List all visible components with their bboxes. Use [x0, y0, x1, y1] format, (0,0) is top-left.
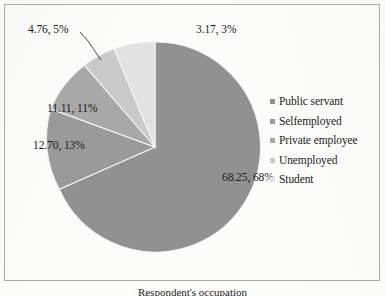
- data-label-student: 3.17, 3%: [196, 24, 236, 36]
- legend-item-private-employee[interactable]: Private employee: [270, 131, 376, 151]
- leader-line-unemployed: [80, 32, 101, 60]
- legend-swatch-icon: [270, 177, 275, 182]
- legend-swatch-icon: [270, 138, 275, 143]
- legend-item-label: Selfemployed: [279, 116, 342, 128]
- legend-swatch-icon: [270, 119, 275, 124]
- figure-caption: Respondent's occupation: [0, 286, 385, 296]
- legend-swatch-icon: [270, 158, 275, 163]
- figure-page: 4.76, 5% 3.17, 3% 11.11, 11% 12.70, 13% …: [0, 0, 385, 296]
- legend-item-selfemployed[interactable]: Selfemployed: [270, 112, 376, 132]
- data-label-selfemployed: 12.70, 13%: [33, 140, 85, 152]
- legend-item-public-servant[interactable]: Public servant: [270, 92, 376, 112]
- legend-item-student[interactable]: Student: [270, 170, 376, 190]
- legend-swatch-icon: [270, 99, 275, 104]
- data-label-public-servant: 68.25, 68%: [222, 172, 274, 184]
- legend-item-label: Student: [279, 174, 313, 186]
- data-label-private-employee: 11.11, 11%: [47, 103, 97, 115]
- legend-item-label: Private employee: [279, 135, 358, 147]
- legend-item-unemployed[interactable]: Unemployed: [270, 151, 376, 171]
- legend-item-label: Unemployed: [279, 155, 337, 167]
- pie-chart-plot-area: 4.76, 5% 3.17, 3% 11.11, 11% 12.70, 13% …: [0, 0, 385, 296]
- data-label-unemployed: 4.76, 5%: [28, 24, 68, 36]
- chart-legend: Public servant Selfemployed Private empl…: [270, 92, 376, 190]
- legend-item-label: Public servant: [279, 96, 343, 108]
